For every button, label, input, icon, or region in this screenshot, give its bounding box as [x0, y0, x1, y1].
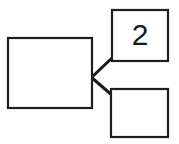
top-right-rectangle-label: 2 [132, 18, 149, 51]
diagram-svg: 2 [0, 0, 179, 144]
connector-left-to-bottom-right [91, 77, 113, 96]
diagram-canvas: 2 [0, 0, 179, 144]
left-rectangle[interactable] [8, 38, 92, 108]
bottom-right-rectangle[interactable] [111, 89, 168, 137]
connector-left-to-top-right [91, 57, 113, 78]
